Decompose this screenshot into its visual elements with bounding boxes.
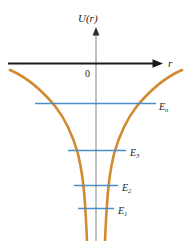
horizontal-axis-arrowhead [153, 59, 164, 68]
horizontal-axis-label: r [168, 57, 173, 69]
origin-label: 0 [85, 68, 90, 79]
energy-level-label-3-sub: 3 [135, 152, 140, 159]
energy-level-label-n-sub: n [165, 106, 168, 113]
energy-level-label-1-base: E [117, 205, 124, 216]
figure-canvas: U(r) r 0 En E3 E2 E1 [0, 0, 196, 241]
potential-well-figure: U(r) r 0 En E3 E2 E1 [0, 0, 196, 241]
energy-level-label-1-sub: 1 [124, 210, 127, 217]
energy-level-label-n: En [158, 101, 168, 113]
energy-level-label-n-base: E [158, 101, 165, 112]
potential-curve-right-branch [105, 70, 182, 241]
vertical-axis-label: U(r) [78, 12, 98, 25]
energy-level-label-2: E2 [121, 182, 132, 194]
energy-level-label-2-sub: 2 [128, 187, 132, 194]
potential-curve-left-branch [10, 70, 87, 241]
energy-level-label-3-base: E [129, 147, 136, 158]
vertical-axis-label-close: ) [93, 12, 98, 25]
energy-level-label-1: E1 [117, 205, 127, 217]
energy-level-label-2-base: E [121, 182, 128, 193]
vertical-axis-arrowhead [93, 27, 100, 36]
energy-level-label-3: E3 [129, 147, 140, 159]
